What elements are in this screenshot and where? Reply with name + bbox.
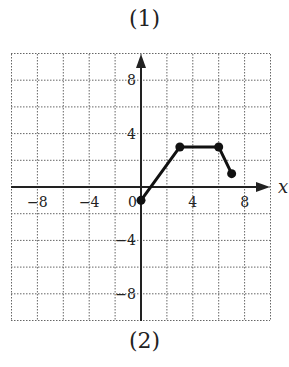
x-tick-label: −8 bbox=[27, 194, 48, 210]
data-point bbox=[214, 142, 223, 151]
x-tick-label: −4 bbox=[79, 194, 100, 210]
x-tick-label: 0 bbox=[128, 194, 137, 210]
y-tick-label: −8 bbox=[115, 286, 136, 302]
x-tick-label: 4 bbox=[188, 194, 197, 210]
data-point bbox=[137, 196, 146, 205]
figure-label-bottom: (2) bbox=[0, 328, 289, 353]
data-point bbox=[175, 142, 184, 151]
data-point bbox=[227, 169, 236, 178]
y-tick-label: −4 bbox=[115, 232, 136, 248]
x-axis-label: x bbox=[278, 176, 288, 197]
y-tick-label: 8 bbox=[127, 72, 136, 88]
x-axis-arrow-icon bbox=[256, 182, 270, 192]
graph-line bbox=[141, 147, 232, 200]
y-axis-arrow-icon bbox=[136, 54, 146, 68]
x-tick-label: 8 bbox=[240, 194, 249, 210]
y-tick-label: 4 bbox=[127, 126, 136, 142]
coordinate-graph: x−8−404884−4−8 bbox=[0, 0, 289, 367]
